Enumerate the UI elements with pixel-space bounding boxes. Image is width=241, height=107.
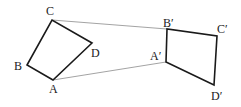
diagram-canvas: C B A D B′ C′ A′ D′ [0,0,241,107]
vertex-label-a: A [49,82,58,96]
vertex-label-c: C [46,4,54,18]
vertex-label-d-prime: D′ [211,89,223,103]
vertex-label-b: B [14,59,22,73]
quadrilateral-abcd [27,20,92,80]
quadrilateral-a-prime-b-prime-c-prime-d-prime [166,29,217,85]
vertex-label-a-prime: A′ [150,49,162,63]
vertex-label-c-prime: C′ [217,22,228,36]
vertex-label-d: D [91,46,100,60]
vertex-label-b-prime: B′ [163,16,174,30]
connector-c-to-b-prime [52,20,167,29]
